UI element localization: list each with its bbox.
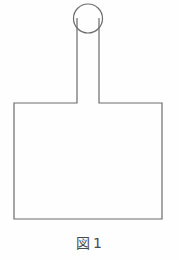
figure-caption-number: 1 bbox=[93, 235, 103, 251]
figure-caption-label: 図 bbox=[76, 235, 91, 251]
figure-drawing bbox=[0, 0, 179, 228]
figure-caption: 図1 bbox=[0, 234, 179, 252]
drawing-background bbox=[0, 0, 179, 228]
figure-page: 図1 bbox=[0, 0, 179, 260]
